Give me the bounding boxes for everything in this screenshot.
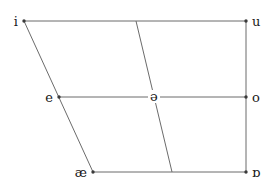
vowel-chart-canvas	[0, 0, 273, 187]
vowel-dot-close-front-unrounded	[22, 19, 25, 22]
vowel-quadrilateral-chart: iueəoæɒ	[0, 0, 273, 187]
vowel-dot-open-back-rounded	[244, 170, 247, 173]
vowel-dot-open-front-unrounded	[91, 170, 94, 173]
vowel-dot-mid-back-rounded	[244, 95, 247, 98]
vowel-label-close-back-rounded: u	[252, 15, 260, 28]
vowel-label-mid-front-unrounded: e	[45, 91, 53, 104]
quadrilateral-lines	[24, 21, 246, 172]
vowel-label-mid-back-rounded: o	[252, 91, 260, 104]
vowel-label-close-front-unrounded: i	[14, 15, 18, 28]
vowel-label-open-back-rounded: ɒ	[252, 166, 260, 179]
vowel-dot-mid-front-unrounded	[57, 95, 60, 98]
vowel-dot-close-back-rounded	[244, 19, 247, 22]
vowel-label-open-front-unrounded: æ	[75, 166, 87, 179]
vowel-label-mid-central-schwa: ə	[148, 90, 160, 103]
